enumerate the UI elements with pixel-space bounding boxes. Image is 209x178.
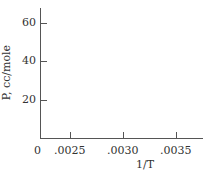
x-tick-label-0025: .0025 — [54, 144, 86, 157]
y-tick-label-20: 20 — [22, 93, 36, 106]
y-axis-label: P, cc/mole — [0, 41, 13, 105]
y-tick-60 — [41, 23, 47, 24]
y-tick-label-60: 60 — [22, 16, 36, 29]
x-origin-label: 0 — [34, 144, 41, 157]
y-tick-40 — [41, 61, 47, 62]
x-tick-0030 — [123, 132, 124, 138]
y-tick-20 — [41, 100, 47, 101]
x-axis-label: 1/T — [136, 158, 154, 171]
x-tick-0035 — [176, 132, 177, 138]
y-axis — [40, 8, 41, 139]
x-axis — [40, 138, 203, 139]
x-tick-label-0035: .0035 — [160, 144, 192, 157]
x-tick-0025 — [70, 132, 71, 138]
y-tick-label-40: 40 — [22, 54, 36, 67]
x-tick-label-0030: .0030 — [107, 144, 139, 157]
